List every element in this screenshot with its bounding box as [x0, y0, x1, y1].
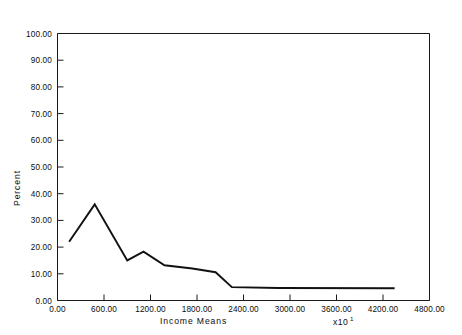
x-tick-label: 4200.00 — [368, 305, 399, 314]
y-tick-label: 40.00 — [31, 190, 53, 199]
y-tick-labels: 0.00 10.00 20.00 30.00 40.00 50.00 60.00… — [26, 30, 52, 306]
y-tick-label: 30.00 — [31, 216, 53, 225]
y-tick-label: 70.00 — [31, 110, 53, 119]
x-axis-title: Income Means — [160, 316, 227, 326]
x-tick-label: 2400.00 — [228, 305, 259, 314]
y-tick-label: 100.00 — [26, 30, 52, 39]
x-tick-label: 1800.00 — [182, 305, 213, 314]
data-series-line — [69, 204, 395, 288]
plot-frame — [58, 34, 430, 301]
y-axis-title: Percent — [12, 170, 22, 206]
y-tick-label: 10.00 — [31, 270, 53, 279]
y-tick-label: 50.00 — [31, 163, 53, 172]
x-tick-label: 4800.00 — [414, 305, 445, 314]
x-multiplier-base: x10 — [333, 317, 348, 327]
chart-figure: 0.00 10.00 20.00 30.00 40.00 50.00 60.00… — [0, 0, 462, 335]
y-tick-label: 20.00 — [31, 243, 53, 252]
y-tick-label: 90.00 — [31, 56, 53, 65]
y-tick-marks — [58, 34, 64, 301]
x-tick-label: 3000.00 — [275, 305, 306, 314]
x-tick-marks — [58, 295, 430, 301]
y-tick-label: 60.00 — [31, 136, 53, 145]
x-axis-multiplier: x10 1 — [333, 315, 354, 327]
x-tick-label: 3600.00 — [321, 305, 352, 314]
x-tick-labels: 0.00 600.00 1200.00 1800.00 2400.00 3000… — [49, 305, 445, 314]
x-tick-label: 0.00 — [49, 305, 66, 314]
x-tick-label: 600.00 — [91, 305, 117, 314]
line-chart: 0.00 10.00 20.00 30.00 40.00 50.00 60.00… — [0, 0, 462, 335]
x-tick-label: 1200.00 — [135, 305, 166, 314]
y-tick-label: 80.00 — [31, 83, 53, 92]
x-multiplier-exponent: 1 — [350, 315, 354, 322]
